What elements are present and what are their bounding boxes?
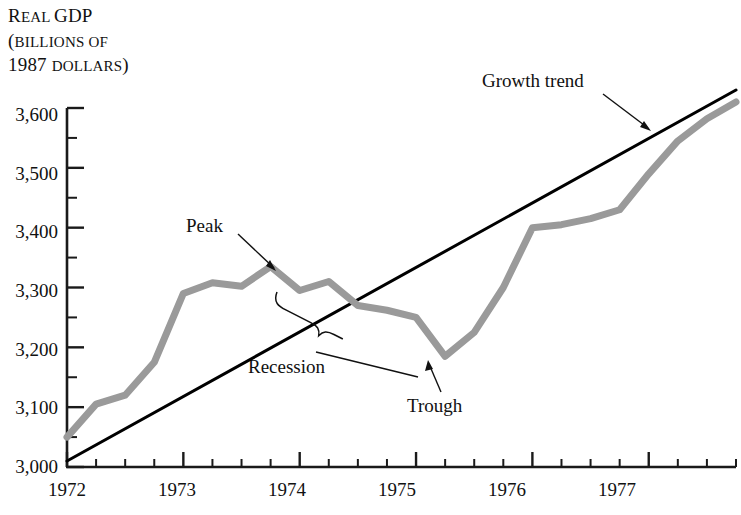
recession-leader xyxy=(316,352,418,377)
y-axis-ticks xyxy=(67,108,84,467)
axis-lines xyxy=(66,108,736,467)
recession-brace xyxy=(268,292,348,346)
peak-arrow xyxy=(238,234,276,271)
real-gdp-line xyxy=(67,102,736,437)
trough-arrow xyxy=(425,360,441,392)
annotation-leaders xyxy=(238,94,651,392)
growth-trend-arrow xyxy=(603,94,651,131)
gdp-business-cycle-chart: REAL GDP (BILLIONS OF 1987 DOLLARS) 3,60… xyxy=(0,0,741,515)
growth-trend-line xyxy=(67,90,736,461)
x-axis-ticks xyxy=(67,452,736,467)
chart-plot-area xyxy=(0,0,741,515)
